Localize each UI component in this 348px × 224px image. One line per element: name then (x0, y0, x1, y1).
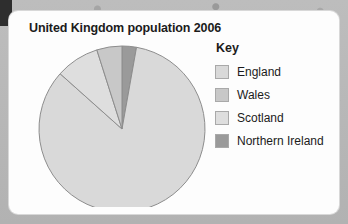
legend-label-england: England (237, 65, 281, 79)
pie-chart (30, 35, 215, 207)
legend-item-wales[interactable]: Wales (215, 83, 335, 106)
legend-label-scotland: Scotland (237, 111, 284, 125)
pie-slice-group (39, 46, 205, 207)
legend-swatch-scotland (215, 111, 229, 125)
legend-label-wales: Wales (237, 88, 270, 102)
legend-item-northern-ireland[interactable]: Northern Ireland (215, 129, 335, 152)
legend-item-scotland[interactable]: Scotland (215, 106, 335, 129)
legend-item-england[interactable]: England (215, 60, 335, 83)
legend-swatch-england (215, 65, 229, 79)
legend: Key England Wales Scotland Northern Irel… (215, 41, 335, 152)
legend-label-northern-ireland: Northern Ireland (237, 134, 324, 148)
screenshot-root: United Kingdom population 2006 Key Engla… (0, 0, 348, 224)
page-title: United Kingdom population 2006 (29, 21, 221, 35)
legend-swatch-northern-ireland (215, 134, 229, 148)
legend-title: Key (216, 41, 335, 55)
pie-chart-svg (30, 35, 215, 207)
legend-swatch-wales (215, 88, 229, 102)
chart-card: United Kingdom population 2006 Key Engla… (9, 11, 339, 214)
